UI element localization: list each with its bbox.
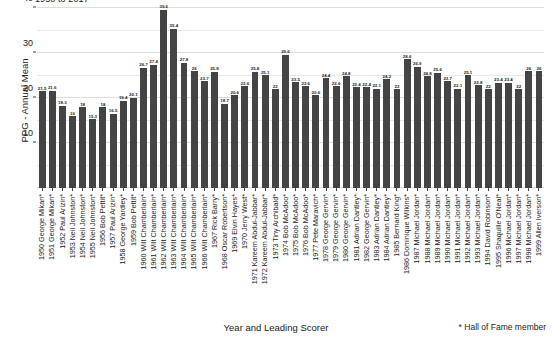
- bar[interactable]: 23.7: [201, 81, 208, 188]
- bar[interactable]: 22.1: [373, 89, 380, 188]
- bar[interactable]: 35.4: [170, 29, 177, 188]
- bar[interactable]: 25.8: [211, 72, 218, 188]
- y-axis-label: PPG - Annual Mean: [19, 31, 30, 171]
- x-tick-slot: 1996 Michael Jordan*: [503, 188, 513, 284]
- x-tick-slot: 1972 Kareem Abdul-Jabbar*: [260, 188, 270, 284]
- x-tick-slot: 1989 Michael Jordan*: [432, 188, 442, 284]
- bar[interactable]: 16.5: [110, 114, 117, 188]
- x-tick-mark: [315, 188, 316, 191]
- bar[interactable]: 25.1: [262, 75, 269, 188]
- x-tick-mark: [447, 188, 448, 191]
- x-tick-slot: 1999 Allen Iverson*: [534, 188, 544, 284]
- bar[interactable]: 15.3: [89, 119, 96, 188]
- x-tick-slot: 1953 Neil Johnston*: [67, 188, 77, 284]
- bar[interactable]: 25.1: [465, 75, 472, 188]
- bar-slot: 20.1: [128, 8, 138, 188]
- x-tick-label: 1955 Neil Johnston*: [89, 194, 97, 258]
- bar-value-label: 22.8: [474, 80, 483, 85]
- bar[interactable]: 28.6: [404, 59, 411, 188]
- x-tick-label: 1952 Paul Arizin*: [59, 194, 67, 249]
- bar[interactable]: 21.6: [49, 91, 56, 188]
- x-tick-label: 1986 Dominique Wilkins*: [403, 194, 411, 274]
- x-tick-slot: 1987 Michael Jordan*: [412, 188, 422, 284]
- bar-slot: 28.6: [402, 8, 412, 188]
- bar[interactable]: 27.4: [150, 65, 157, 188]
- bar[interactable]: 22.1: [454, 89, 461, 188]
- bar[interactable]: 25.6: [434, 73, 441, 188]
- x-tick-mark: [295, 188, 296, 191]
- x-tick-slot: 1969 Elvin Hayes*: [230, 188, 240, 284]
- bar[interactable]: 22: [515, 89, 522, 188]
- bar[interactable]: 24.8: [343, 76, 350, 188]
- bar[interactable]: 24.2: [383, 79, 390, 188]
- bar[interactable]: 18.7: [221, 104, 228, 188]
- x-tick-mark: [184, 188, 185, 191]
- bar[interactable]: 26.9: [414, 67, 421, 188]
- x-tick-slot: 1978 George Gervin*: [321, 188, 331, 284]
- x-tick-mark: [204, 188, 205, 191]
- bar[interactable]: 23.4: [495, 83, 502, 188]
- bar[interactable]: 18: [99, 107, 106, 188]
- bar[interactable]: 29.6: [282, 55, 289, 188]
- x-tick-label: 1976 Bob McAdoo*: [302, 194, 310, 256]
- bar-value-label: 23.7: [443, 76, 452, 81]
- bar-slot: 23.7: [443, 8, 453, 188]
- bar[interactable]: 18.3: [59, 106, 66, 188]
- bar-slot: 26.9: [412, 8, 422, 188]
- x-tick-label: 1979 George Gervin*: [332, 194, 340, 262]
- bar-slot: 25.1: [463, 8, 473, 188]
- bar[interactable]: 27.8: [181, 63, 188, 188]
- x-tick-slot: 1955 Neil Johnston*: [88, 188, 98, 284]
- bar[interactable]: 26: [536, 71, 543, 188]
- bar-value-label: 27.8: [180, 57, 189, 62]
- bar[interactable]: 23.5: [292, 82, 299, 188]
- bar[interactable]: 22: [485, 89, 492, 188]
- bar-value-label: 22.4: [362, 82, 371, 87]
- bar[interactable]: 26.7: [140, 68, 147, 188]
- x-tick-slot: 1956 Bob Pettit*: [98, 188, 108, 284]
- x-tick-mark: [163, 188, 164, 191]
- bar[interactable]: 22.8: [475, 85, 482, 188]
- bar[interactable]: 22.6: [302, 86, 309, 188]
- x-tick-slot: 1961 Wilt Chamberlain*: [149, 188, 159, 284]
- x-tick-slot: 1991 Michael Jordan*: [453, 188, 463, 284]
- bar[interactable]: 22.4: [363, 87, 370, 188]
- bar-slot: 22.8: [473, 8, 483, 188]
- bar[interactable]: 39.6: [160, 10, 167, 188]
- bar[interactable]: 20.6: [231, 95, 238, 188]
- x-tick-mark: [255, 188, 256, 191]
- x-tick-mark: [396, 188, 397, 191]
- bar[interactable]: 22.4: [353, 87, 360, 188]
- bar[interactable]: 22: [394, 89, 401, 188]
- x-tick-mark: [52, 188, 53, 191]
- bar-slot: 20.6: [311, 8, 321, 188]
- x-tick-mark: [528, 188, 529, 191]
- x-tick-mark: [285, 188, 286, 191]
- bar-value-label: 26: [537, 66, 542, 71]
- bar-value-label: 25.8: [251, 66, 260, 71]
- bar[interactable]: 16: [69, 116, 76, 188]
- bar[interactable]: 18: [79, 107, 86, 188]
- bar-slot: 18.7: [220, 8, 230, 188]
- bar[interactable]: 25.8: [252, 72, 259, 188]
- bar[interactable]: 20.1: [130, 98, 137, 188]
- bar[interactable]: 22: [272, 89, 279, 188]
- bar[interactable]: 24.4: [323, 78, 330, 188]
- bar[interactable]: 20.6: [312, 95, 319, 188]
- bar[interactable]: 23.7: [444, 81, 451, 188]
- bar[interactable]: 26: [525, 71, 532, 188]
- bar-slot: 22.1: [453, 8, 463, 188]
- bar-value-label: 25.1: [261, 70, 270, 75]
- bar-value-label: 20.6: [312, 90, 321, 95]
- bar[interactable]: 24.8: [424, 76, 431, 188]
- x-tick-slot: 1980 George Gervin*: [341, 188, 351, 284]
- bar[interactable]: 26: [191, 71, 198, 188]
- x-tick-mark: [194, 188, 195, 191]
- x-tick-mark: [42, 188, 43, 191]
- bar[interactable]: 19.4: [120, 101, 127, 188]
- bar[interactable]: 23.4: [505, 83, 512, 188]
- bar[interactable]: 22.6: [241, 86, 248, 188]
- x-tick-label: 1972 Kareem Abdul-Jabbar*: [261, 194, 269, 284]
- bar[interactable]: 22.6: [333, 86, 340, 188]
- bar[interactable]: 21.5: [39, 91, 46, 188]
